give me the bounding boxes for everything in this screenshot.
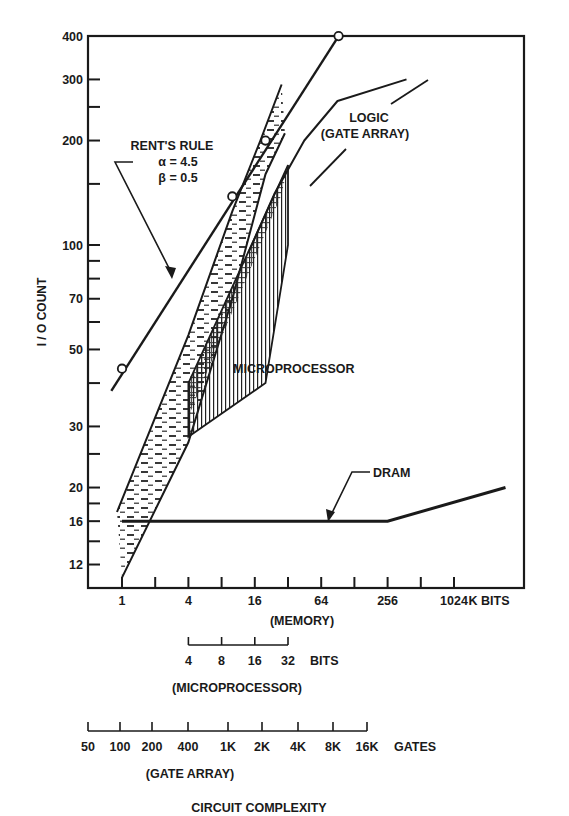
rent-rule-label: RENT'S RULE (131, 139, 214, 153)
io-count-chart: 400300200100705030201612 1416642561024 4… (0, 0, 569, 816)
rent-rule-marker (261, 136, 269, 144)
x-tick-label: 1 (119, 594, 126, 608)
y-tick-label: 400 (62, 30, 83, 44)
dram-line (122, 488, 506, 522)
microprocessor-caption: (MICROPROCESSOR) (172, 681, 302, 695)
microprocessor-label: MICROPROCESSOR (233, 362, 355, 376)
y-tick-label: 30 (69, 420, 83, 434)
gate-array-tick-label: 2K (254, 740, 270, 754)
y-tick-label: 70 (69, 292, 83, 306)
gate-array-tick-label: 400 (178, 740, 199, 754)
microprocessor-tick-label: 32 (281, 654, 295, 668)
x-axis-label: CIRCUIT COMPLEXITY (191, 801, 327, 815)
gate-array-tick-label: 1K (220, 740, 236, 754)
rent-beta-label: β = 0.5 (158, 171, 197, 185)
y-axis-label: I / O COUNT (35, 277, 49, 346)
gate-array-tick-label: 4K (290, 740, 306, 754)
y-tick-label: 16 (69, 515, 83, 529)
gate-array-tick-label: 16K (356, 740, 379, 754)
x-tick-label: 64 (314, 594, 328, 608)
y-axis: 400300200100705030201612 (62, 30, 100, 572)
logic-gate-array-label: (GATE ARRAY) (321, 127, 409, 141)
dram-arrow (330, 472, 370, 517)
microprocessor-unit: BITS (310, 654, 338, 668)
x-axis-memory: 1416642561024 (119, 577, 468, 608)
gate-array-caption: (GATE ARRAY) (146, 767, 234, 781)
gate-array-tick-label: 50 (81, 740, 95, 754)
gate-array-tick-label: 200 (142, 740, 163, 754)
x-unit-kbits: K BITS (469, 594, 510, 608)
logic-label: LOGIC (349, 111, 389, 125)
logic-leader-top (391, 80, 428, 104)
dram-label: DRAM (373, 466, 411, 480)
rent-rule-marker (118, 365, 126, 373)
y-tick-label: 300 (62, 73, 83, 87)
regions (117, 85, 288, 578)
rent-rule-marker (334, 32, 342, 40)
microprocessor-tick-label: 4 (185, 654, 192, 668)
gates-unit: GATES (394, 740, 436, 754)
rent-rule-marker (228, 192, 236, 200)
x-tick-label: 1024 (440, 594, 468, 608)
rent-rule-arrowhead (165, 266, 176, 279)
x-tick-label: 4 (185, 594, 192, 608)
gate-array-tick-label: 100 (110, 740, 131, 754)
logic-leader-bottom (310, 149, 346, 186)
rent-alpha-label: α = 4.5 (158, 155, 197, 169)
microprocessor-tick-label: 8 (218, 654, 225, 668)
y-tick-label: 20 (69, 481, 83, 495)
x-tick-label: 16 (248, 594, 262, 608)
memory-caption: (MEMORY) (270, 614, 334, 628)
y-tick-label: 50 (69, 343, 83, 357)
gate-array-tick-label: 8K (325, 740, 341, 754)
y-tick-label: 100 (62, 239, 83, 253)
y-tick-label: 12 (69, 558, 83, 572)
y-tick-label: 200 (62, 134, 83, 148)
x-tick-label: 256 (377, 594, 398, 608)
microprocessor-tick-label: 16 (248, 654, 262, 668)
